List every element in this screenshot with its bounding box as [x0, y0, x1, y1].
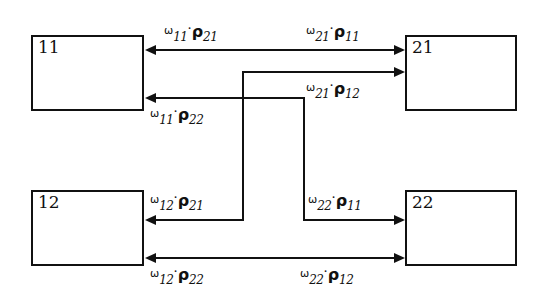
edge-label-omega22-rho11: ω22·ρ11: [308, 190, 361, 214]
edge-label-omega21-rho12: ω21·ρ12: [306, 78, 359, 102]
edge-label-omega11-rho21: ω11·ρ21: [164, 21, 217, 45]
arrowhead-left-11-21: [145, 45, 156, 55]
diagram-canvas: 11 21 12 22 ω11·ρ21 ω21·ρ11 ω21·ρ12 ω11·…: [0, 0, 546, 299]
edge-line-stepped-to-11: [155, 97, 305, 99]
edge-line-11-21: [155, 49, 403, 51]
edge-label-omega12-rho21: ω12·ρ21: [150, 190, 203, 214]
node-label-11: 11: [38, 38, 60, 57]
edge-line-12-22: [155, 257, 403, 259]
edge-vline-right-riser: [303, 97, 305, 219]
node-box-22[interactable]: 22: [405, 190, 517, 266]
edge-label-omega21-rho11: ω21·ρ11: [306, 21, 359, 45]
node-box-21[interactable]: 21: [405, 35, 517, 111]
node-box-12[interactable]: 12: [31, 190, 144, 266]
arrowhead-right-to-22: [394, 215, 405, 225]
edge-label-omega11-rho22: ω11·ρ22: [150, 104, 203, 128]
arrowhead-left-to-12: [145, 215, 156, 225]
edge-line-stepped-to-21: [242, 71, 403, 73]
edge-label-omega22-rho12: ω22·ρ12: [300, 264, 353, 288]
edge-line-to-22: [303, 219, 403, 221]
node-box-11[interactable]: 11: [31, 35, 144, 111]
arrowhead-left-to-11: [145, 93, 156, 103]
edge-line-to-12: [155, 219, 244, 221]
arrowhead-right-to-21: [394, 67, 405, 77]
arrowhead-right-11-21: [394, 45, 405, 55]
arrowhead-right-12-22: [394, 253, 405, 263]
edge-label-omega12-rho22: ω12·ρ22: [150, 264, 203, 288]
node-label-21: 21: [412, 38, 434, 57]
arrowhead-left-12-22: [145, 253, 156, 263]
node-label-12: 12: [38, 193, 60, 212]
edge-vline-left-riser: [242, 71, 244, 219]
node-label-22: 22: [412, 193, 434, 212]
